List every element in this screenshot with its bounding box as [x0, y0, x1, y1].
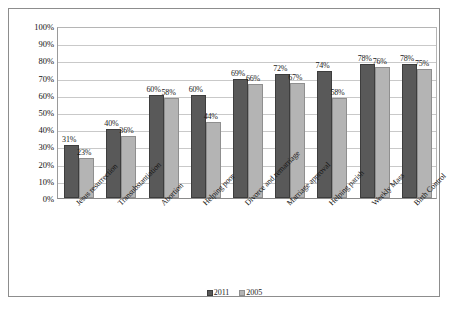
bar-value-label: 78%	[358, 54, 372, 63]
y-axis-tick-label: 50%	[18, 109, 54, 118]
bar-value-label: 78%	[400, 54, 414, 63]
bar-value-label: 36%	[119, 126, 133, 135]
x-axis-category-labels: Jesus resurrectionTransubstantiationAbor…	[57, 201, 437, 283]
legend-label: 2011	[214, 288, 230, 297]
chart-frame: 100%90%80%70%60%50%40%30%20%10%0% 31%23%…	[8, 8, 440, 297]
y-axis-tick-label: 40%	[18, 126, 54, 135]
bar[interactable]	[149, 95, 164, 198]
y-axis-tick-label: 60%	[18, 91, 54, 100]
bar-group: 31%23%	[58, 28, 100, 198]
bar[interactable]	[233, 79, 248, 198]
chart-legend: 20112005	[9, 288, 451, 298]
bar[interactable]	[375, 67, 390, 198]
bar-value-label: 44%	[204, 112, 218, 121]
bar-value-label: 23%	[77, 148, 91, 157]
bar-value-label: 66%	[246, 74, 260, 83]
bar-value-label: 31%	[62, 135, 76, 144]
bar-group: 60%44%	[185, 28, 227, 198]
legend-swatch-icon	[239, 290, 245, 296]
y-axis-tick-label: 100%	[18, 23, 54, 32]
legend-item[interactable]: 2011	[207, 288, 230, 298]
bar-value-label: 69%	[231, 69, 245, 78]
legend-item[interactable]: 2005	[239, 288, 262, 298]
bar[interactable]	[191, 95, 206, 198]
bar[interactable]	[290, 83, 305, 198]
bar-value-label: 72%	[273, 64, 287, 73]
bar-value-label: 58%	[162, 88, 176, 97]
bar-value-label: 76%	[373, 57, 387, 66]
y-axis-tick-label: 0%	[18, 195, 54, 204]
bar[interactable]	[417, 69, 432, 198]
y-axis-tick-label: 70%	[18, 74, 54, 83]
y-axis-tick-label: 80%	[18, 57, 54, 66]
bar-value-label: 40%	[104, 119, 118, 128]
bar-value-label: 60%	[189, 85, 203, 94]
bar[interactable]	[248, 84, 263, 198]
y-axis-tick-label: 30%	[18, 143, 54, 152]
bar[interactable]	[275, 74, 290, 198]
legend-swatch-icon	[207, 290, 213, 296]
y-axis-tick-label: 20%	[18, 160, 54, 169]
y-axis-tick-label: 10%	[18, 177, 54, 186]
bar-group: 78%75%	[396, 28, 438, 198]
bar-value-label: 58%	[330, 88, 344, 97]
bar-value-label: 60%	[147, 85, 161, 94]
bar-group: 69%66%	[227, 28, 269, 198]
bar-value-label: 74%	[315, 61, 329, 70]
y-axis-tick-label: 90%	[18, 40, 54, 49]
legend-label: 2005	[246, 288, 262, 297]
bar-value-label: 67%	[288, 73, 302, 82]
y-axis: 100%90%80%70%60%50%40%30%20%10%0%	[18, 19, 54, 201]
bar-value-label: 75%	[415, 59, 429, 68]
